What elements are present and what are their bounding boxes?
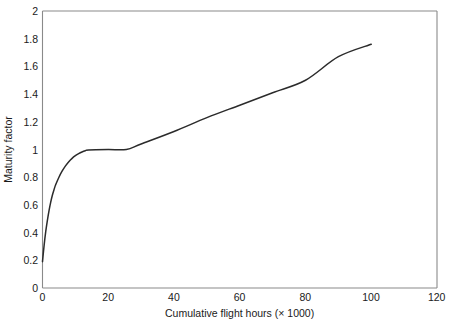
y-tick-label: 1.6 <box>23 60 38 72</box>
x-tick-label: 80 <box>299 291 311 303</box>
y-tick-label: 0.4 <box>23 227 38 239</box>
x-tick-label: 20 <box>102 291 114 303</box>
y-tick-label: 0.8 <box>23 171 38 183</box>
y-tick-label: 0.6 <box>23 199 38 211</box>
y-tick-label: 0 <box>32 282 38 294</box>
chart-figure: 2 1.8 1.6 1.4 1.2 1 0.8 0.6 0.4 0.2 0 0 … <box>0 0 453 322</box>
x-tick-label: 60 <box>234 291 246 303</box>
x-tick-label: 40 <box>168 291 180 303</box>
chart-canvas: 2 1.8 1.6 1.4 1.2 1 0.8 0.6 0.4 0.2 0 0 … <box>0 0 453 322</box>
y-axis-title: Maturity factor <box>2 116 14 183</box>
y-tick-label: 1.8 <box>23 33 38 45</box>
y-tick-label: 1.4 <box>23 88 38 100</box>
y-tick-label: 1 <box>32 144 38 156</box>
x-tick-label: 0 <box>40 291 46 303</box>
figure-background <box>0 0 453 322</box>
x-tick-label: 100 <box>362 291 380 303</box>
x-axis-title: Cumulative flight hours (× 1000) <box>165 307 314 319</box>
y-tick-label: 2 <box>32 5 38 17</box>
x-tick-label: 120 <box>428 291 446 303</box>
y-tick-label: 1.2 <box>23 116 38 128</box>
y-tick-label: 0.2 <box>23 254 38 266</box>
